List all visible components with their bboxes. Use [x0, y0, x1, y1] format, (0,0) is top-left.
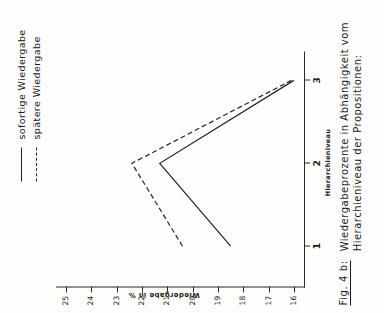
chart-legend: sofortige Wiedergabe spätere Wiedergabe	[14, 11, 44, 181]
legend-label-sofortige: sofortige Wiedergabe	[16, 29, 27, 139]
figure-caption-text: Wiedergabeprozente in Abhängigkeit vom H…	[338, 21, 364, 250]
y-tick-label-16: 16	[290, 295, 298, 313]
y-axis-title: Wiedergabe in %	[109, 290, 219, 298]
y-tick-label-24: 24	[87, 295, 95, 313]
plot-area: 25242322212019181716 123 Wiedergabe in %…	[56, 47, 324, 287]
series-lines	[56, 47, 324, 287]
legend-swatch-dashed-icon	[36, 147, 37, 181]
figure-caption-line-2: Hierarchieniveau der Propositionen:	[351, 21, 364, 250]
y-tick-label-25: 25	[62, 295, 70, 313]
series-line-spaetere	[132, 80, 291, 246]
legend-item-sofortige: sofortige Wiedergabe	[14, 11, 29, 181]
legend-label-spaetere: spätere Wiedergabe	[31, 36, 42, 139]
figure-caption: Fig. 4 b: Wiedergabeprozente in Abhängig…	[338, 5, 364, 305]
series-line-sofortige	[160, 80, 294, 246]
legend-swatch-solid-icon	[21, 147, 22, 181]
figure-canvas: sofortige Wiedergabe spätere Wiedergabe …	[0, 0, 384, 313]
scanned-figure-page: sofortige Wiedergabe spätere Wiedergabe …	[0, 0, 384, 313]
legend-item-spaetere: spätere Wiedergabe	[29, 11, 44, 181]
figure-caption-line-1: Wiedergabeprozente in Abhängigkeit vom	[338, 21, 351, 250]
y-tick-label-18: 18	[239, 295, 247, 313]
figure-caption-label: Fig. 4 b:	[338, 260, 351, 305]
x-axis-title: Hierarchieniveau	[324, 97, 332, 227]
y-tick-label-17: 17	[265, 295, 273, 313]
